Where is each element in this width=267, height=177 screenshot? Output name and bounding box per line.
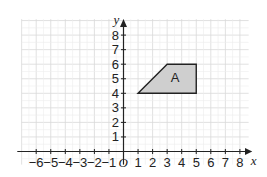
shape-a-label: A xyxy=(171,70,180,85)
x-tick-label: 4 xyxy=(178,155,185,170)
y-tick-label: 6 xyxy=(112,57,119,72)
x-tick-label: 8 xyxy=(236,155,243,170)
x-tick-label: 1 xyxy=(134,155,141,170)
x-tick-label: −3 xyxy=(72,155,87,170)
axes xyxy=(17,19,252,165)
x-tick-label: 5 xyxy=(193,155,200,170)
x-tick-label: −1 xyxy=(102,155,117,170)
y-tick-label: 7 xyxy=(112,42,119,57)
y-axis-label: y xyxy=(112,12,120,27)
origin-label: O xyxy=(119,155,129,170)
x-tick-label: 6 xyxy=(207,155,214,170)
y-tick-label: 8 xyxy=(112,28,119,43)
x-tick-label: −5 xyxy=(43,155,58,170)
x-tick-label: −6 xyxy=(29,155,44,170)
x-tick-label: −2 xyxy=(87,155,102,170)
y-tick-label: 4 xyxy=(112,86,119,101)
y-tick-label: 1 xyxy=(112,129,119,144)
y-tick-label: 3 xyxy=(112,100,119,115)
x-tick-label: −4 xyxy=(58,155,73,170)
coordinate-plane: A −6−5−4−3−2−112345678 12345678 x y O xyxy=(0,0,267,177)
y-tick-label: 2 xyxy=(112,115,119,130)
x-tick-label: 2 xyxy=(149,155,156,170)
grid-lines xyxy=(22,19,249,165)
x-axis-label: x xyxy=(250,153,257,168)
x-tick-label: 3 xyxy=(164,155,171,170)
x-tick-label: 7 xyxy=(222,155,229,170)
y-tick-label: 5 xyxy=(112,71,119,86)
